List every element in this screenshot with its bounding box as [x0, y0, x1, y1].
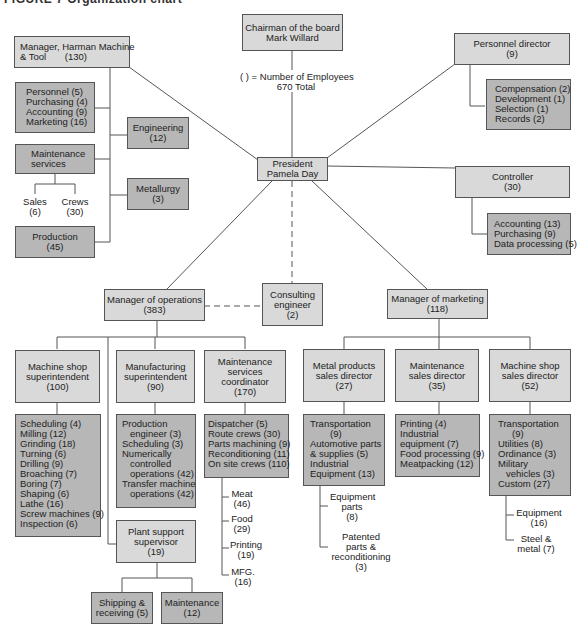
- steel-metal-label: Steel & metal (7): [516, 534, 556, 554]
- machine-shop-superintendent-box: Machine shop superintendent (100): [15, 350, 100, 403]
- employee-legend: ( ) = Number of Employees 670 Total: [240, 72, 352, 92]
- controller-box: Controller (30): [455, 166, 570, 198]
- president-box: President Pamela Day: [257, 157, 328, 181]
- equipment-label: Equipment (16): [516, 508, 562, 528]
- personnel-director-box: Personnel director (9): [454, 33, 570, 65]
- personnel-items-box: Compensation (2) Development (1) Selecti…: [486, 79, 571, 130]
- chairman-title: Chairman of the board: [245, 23, 340, 33]
- sales-label: Sales (6): [22, 197, 48, 217]
- harman-staff-box: Personnel (5) Purchasing (4) Accounting …: [15, 82, 95, 133]
- equipment-parts-label: Equipment parts (8): [330, 492, 374, 522]
- consulting-engineer-box: Consulting engineer (2): [262, 283, 323, 326]
- maintenance-sales-items-box: Printing (4) Industrial equipment (7) Fo…: [395, 414, 480, 477]
- maintenance-sales-director-box: Maintenance sales director (35): [395, 349, 479, 402]
- metallurgy-box: Metallurgy (3): [127, 178, 189, 210]
- meat-label: Meat (46): [228, 489, 256, 509]
- chairman-box: Chairman of the board Mark Willard: [242, 14, 343, 51]
- president-name: Pamela Day: [267, 169, 319, 179]
- manufacturing-superintendent-box: Manufacturing superintendent (90): [116, 350, 195, 403]
- shipping-receiving-box: Shipping & receiving (5): [91, 592, 153, 624]
- metal-products-director-box: Metal products sales director (27): [303, 349, 385, 402]
- printing-label: Printing (19): [228, 540, 264, 560]
- plant-support-supervisor-box: Plant support supervisor (19): [116, 520, 196, 563]
- metal-products-items-box: Transportation (9) Automotive parts & su…: [303, 414, 385, 486]
- machine-shop-sales-items-box: Transportation (9) Utilities (8) Ordinan…: [489, 414, 571, 496]
- plant-maintenance-box: Maintenance (12): [161, 592, 223, 624]
- engineering-box: Engineering (12): [127, 117, 189, 149]
- marketing-manager-box: Manager of marketing (118): [387, 289, 488, 319]
- harman-manager-box: Manager, Harman Machine & Tool (130): [14, 36, 130, 68]
- crews-label: Crews (30): [60, 197, 90, 217]
- maintenance-coordinator-box: Maintenance services coordinator (170): [204, 350, 286, 403]
- operations-manager-box: Manager of operations (383): [104, 289, 205, 321]
- production-box: Production (45): [15, 226, 95, 258]
- mfg-label: MFG. (16): [228, 567, 258, 587]
- maintenance-coordinator-items-box: Dispatcher (5) Route crews (30) Parts ma…: [204, 414, 289, 478]
- patented-parts-label: Patented parts & reconditioning (3): [330, 532, 392, 572]
- machine-shop-sales-director-box: Machine shop sales director (52): [489, 349, 571, 402]
- manufacturing-items-box: Production engineer (3) Scheduling (3) N…: [116, 414, 196, 508]
- food-label: Food (29): [228, 514, 256, 534]
- controller-items-box: Accounting (13) Purchasing (9) Data proc…: [487, 213, 571, 255]
- maintenance-services-box: Maintenance services: [15, 144, 95, 174]
- machine-shop-items-box: Scheduling (4) Milling (12) Grinding (18…: [15, 414, 101, 537]
- chairman-name: Mark Willard: [266, 33, 319, 43]
